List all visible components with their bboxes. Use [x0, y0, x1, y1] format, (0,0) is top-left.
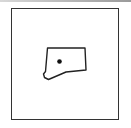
map-canvas — [0, 0, 131, 128]
state-outline — [44, 48, 87, 80]
location-marker — [57, 59, 62, 64]
